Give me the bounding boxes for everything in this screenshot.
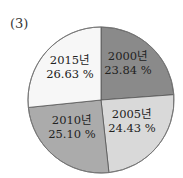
slice-label-year: 2015년 [50, 53, 90, 67]
slice-2005: 2005년 24.43 % [108, 107, 156, 135]
slice-label-percent: 24.43 % [108, 121, 156, 135]
slice-label-year: 2005년 [112, 107, 152, 121]
slice-label-year: 2010년 [52, 113, 92, 127]
slice-label-percent: 23.84 % [104, 63, 152, 77]
slice-label-percent: 25.10 % [48, 127, 96, 141]
slice-2000: 2000년 23.84 % [104, 49, 152, 77]
slice-label-year: 2000년 [108, 49, 148, 63]
pie-chart: 2000년 23.84 % 2005년 24.43 % 2010년 25.10 … [0, 0, 183, 178]
pie-slices [28, 27, 174, 173]
slice-2015: 2015년 26.63 % [46, 53, 94, 81]
slice-label-percent: 26.63 % [46, 67, 94, 81]
slice-2010: 2010년 25.10 % [48, 113, 96, 141]
